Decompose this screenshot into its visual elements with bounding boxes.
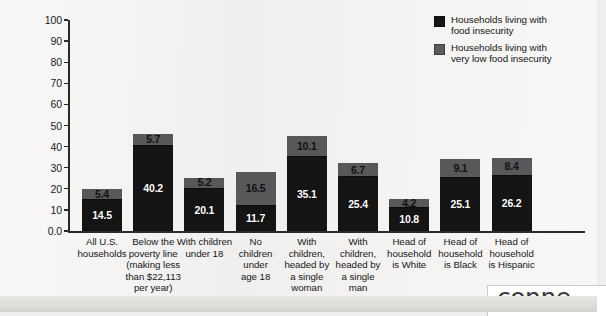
- category-label-line: under 18: [185, 248, 223, 259]
- legend-item-very-low-food-insecurity: Households living with very low food ins…: [434, 42, 594, 65]
- bar-value-label: 16.5: [246, 183, 266, 194]
- bar-segment-very-low-food-insecurity[interactable]: 5.7: [133, 134, 173, 146]
- bar-value-label: 26.2: [502, 198, 522, 209]
- category-label-line: Head of: [495, 236, 529, 247]
- y-axis-tick-label: 90: [16, 35, 62, 47]
- bar-segment-very-low-food-insecurity[interactable]: 16.5: [236, 172, 276, 207]
- y-axis-tick-label: 80: [16, 56, 62, 68]
- bar-group[interactable]: 9.125.1: [440, 159, 480, 231]
- category-label-line: Head of: [392, 236, 426, 247]
- bar-group[interactable]: 6.725.4: [338, 163, 378, 231]
- bar-segment-food-insecurity[interactable]: 25.1: [440, 178, 480, 231]
- y-axis-tick-label: 70: [16, 77, 62, 89]
- y-axis-tick-label: 30: [16, 162, 62, 174]
- bar-segment-very-low-food-insecurity[interactable]: 5.4: [82, 189, 122, 200]
- bar-value-label: 6.7: [351, 165, 365, 176]
- bar-segment-food-insecurity[interactable]: 14.5: [82, 200, 122, 231]
- chart-legend: Households living with food insecurity H…: [434, 14, 594, 70]
- bar-value-label: 9.1: [453, 163, 467, 174]
- category-label-line: household: [438, 248, 482, 259]
- x-axis-category-label: Head ofhouseholdis Hispanic: [481, 236, 543, 271]
- category-label-line: All U.S.: [86, 236, 118, 247]
- bar-group[interactable]: 10.135.1: [287, 136, 327, 231]
- category-label-line: than $22,113: [126, 271, 181, 282]
- bar-group[interactable]: 5.414.5: [82, 189, 122, 231]
- category-label-line: under: [243, 259, 268, 270]
- bar-value-label: 10.8: [399, 214, 419, 225]
- category-label-line: With: [297, 236, 316, 247]
- category-label-line: children,: [340, 248, 376, 259]
- legend-label-line1: Households living with: [451, 14, 547, 25]
- bar-value-label: 14.5: [92, 210, 112, 221]
- bar-segment-very-low-food-insecurity[interactable]: 8.4: [492, 158, 532, 176]
- category-label-line: household: [489, 248, 533, 259]
- page-edge-strip: [0, 296, 597, 312]
- legend-label-line2: very low food insecurity: [451, 53, 552, 64]
- bar-value-label: 20.1: [195, 205, 215, 216]
- category-label-line: (making less: [126, 259, 180, 270]
- category-label-line: Head of: [444, 236, 478, 247]
- category-label-line: is Hispanic: [488, 259, 534, 270]
- y-axis-tick-label: 100: [16, 14, 62, 26]
- category-label-line: Below the: [132, 236, 174, 247]
- legend-label-line2: food insecurity: [451, 25, 513, 36]
- category-label-line: household: [387, 248, 431, 259]
- y-axis-tick-label: 20: [16, 183, 62, 195]
- category-label-line: a single: [290, 271, 323, 282]
- bar-segment-very-low-food-insecurity[interactable]: 10.1: [287, 136, 327, 157]
- category-label-line: With: [348, 236, 367, 247]
- bar-group[interactable]: 5.740.2: [133, 134, 173, 231]
- bar-segment-food-insecurity[interactable]: 26.2: [492, 176, 532, 231]
- bar-segment-very-low-food-insecurity[interactable]: 6.7: [338, 163, 378, 177]
- y-axis-tick-label: 60: [16, 98, 62, 110]
- bar-segment-food-insecurity[interactable]: 11.7: [236, 206, 276, 231]
- bar-value-label: 25.1: [451, 199, 471, 210]
- y-axis-tick-label: 0.0: [16, 225, 62, 237]
- bar-segment-food-insecurity[interactable]: 25.4: [338, 177, 378, 231]
- bar-group[interactable]: 4.210.8: [389, 199, 429, 231]
- bar-value-label: 25.4: [348, 199, 368, 210]
- category-label-line: households: [77, 248, 126, 259]
- category-label-line: is Black: [444, 259, 477, 270]
- category-label-line: poverty line: [129, 248, 178, 259]
- category-label-line: man: [349, 282, 368, 293]
- legend-label-food-insecurity: Households living with food insecurity: [451, 14, 547, 37]
- bar-value-label: 11.7: [246, 213, 265, 224]
- y-axis-tick-label: 50: [16, 120, 62, 132]
- bar-value-label: 35.1: [297, 189, 317, 200]
- bar-value-label: 10.1: [297, 141, 317, 152]
- category-label-line: woman: [291, 282, 322, 293]
- bar-group[interactable]: 8.426.2: [492, 158, 532, 231]
- bar-value-label: 40.2: [143, 183, 163, 194]
- bar-segment-food-insecurity[interactable]: 35.1: [287, 157, 327, 231]
- bar-value-label: 5.2: [197, 177, 211, 188]
- bar-group[interactable]: 5.220.1: [184, 178, 224, 231]
- category-label-line: No: [249, 236, 261, 247]
- legend-label-very-low-food-insecurity: Households living with very low food ins…: [451, 42, 552, 65]
- category-label-line: age 18: [241, 271, 270, 282]
- category-label-line: is White: [392, 259, 426, 270]
- bar-value-label: 4.2: [402, 198, 416, 209]
- bar-segment-food-insecurity[interactable]: 40.2: [133, 146, 173, 231]
- legend-label-line1: Households living with: [451, 42, 547, 53]
- legend-swatch-dark-icon: [434, 16, 445, 27]
- legend-swatch-gray-icon: [434, 44, 445, 55]
- bar-segment-food-insecurity[interactable]: 20.1: [184, 189, 224, 231]
- bar-group[interactable]: 16.511.7: [236, 172, 276, 231]
- bar-value-label: 5.4: [95, 189, 109, 200]
- y-axis-tick-label: 40: [16, 141, 62, 153]
- category-label-line: children: [239, 248, 273, 259]
- bar-value-label: 8.4: [505, 161, 519, 172]
- bar-segment-very-low-food-insecurity[interactable]: 4.2: [389, 199, 429, 208]
- legend-item-food-insecurity: Households living with food insecurity: [434, 14, 594, 37]
- bar-segment-very-low-food-insecurity[interactable]: 9.1: [440, 159, 480, 178]
- bar-segment-very-low-food-insecurity[interactable]: 5.2: [184, 178, 224, 189]
- category-label-line: children,: [289, 248, 325, 259]
- category-label-line: headed by: [284, 259, 329, 270]
- bar-segment-food-insecurity[interactable]: 10.8: [389, 208, 429, 231]
- bar-value-label: 5.7: [146, 134, 160, 145]
- category-label-line: a single: [342, 271, 375, 282]
- y-axis-tick-label: 10: [16, 204, 62, 216]
- category-label-line: per year): [134, 282, 172, 293]
